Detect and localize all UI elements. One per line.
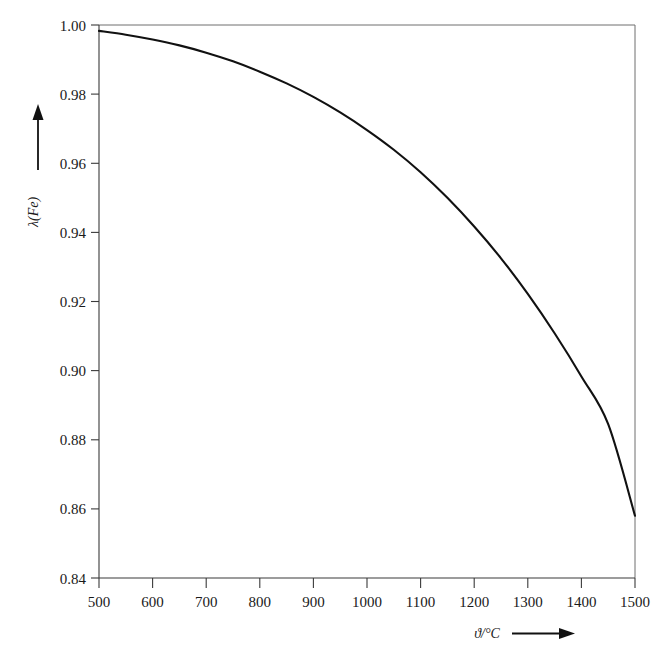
- x-axis-title-group: ϑ/°C: [474, 626, 575, 641]
- y-axis-tick-labels: 1.00 0.98 0.96 0.94 0.92 0.90 0.88 0.86 …: [60, 18, 87, 587]
- x-axis-tick-labels: 500 600 700 800 900 1000 1100 1200 1300 …: [88, 594, 650, 610]
- y-axis-title: λ(Fe): [26, 197, 42, 228]
- y-tick-label-0-84: 0.84: [60, 571, 87, 587]
- x-tick-label-500: 500: [88, 594, 111, 610]
- plot-frame-border: [99, 25, 635, 578]
- x-tick-label-700: 700: [195, 594, 218, 610]
- lambda-fe-vs-temperature-chart: 1.00 0.98 0.96 0.94 0.92 0.90 0.88 0.86 …: [0, 0, 670, 658]
- chart-page: 1.00 0.98 0.96 0.94 0.92 0.90 0.88 0.86 …: [0, 0, 670, 658]
- y-tick-label-0-86: 0.86: [60, 501, 87, 517]
- lambda-fe-curve: [99, 31, 635, 516]
- x-axis-ticks: [99, 578, 635, 588]
- x-axis-title: ϑ/°C: [474, 626, 500, 641]
- x-tick-label-1000: 1000: [352, 594, 382, 610]
- data-series-group: [99, 31, 635, 516]
- x-tick-label-1300: 1300: [513, 594, 543, 610]
- x-tick-label-900: 900: [302, 594, 325, 610]
- y-tick-label-0-92: 0.92: [60, 294, 86, 310]
- x-tick-label-600: 600: [141, 594, 164, 610]
- x-tick-label-1100: 1100: [406, 594, 435, 610]
- x-axis: 500 600 700 800 900 1000 1100 1200 1300 …: [88, 578, 650, 641]
- x-tick-label-1200: 1200: [459, 594, 489, 610]
- y-tick-label-1-00: 1.00: [60, 18, 86, 34]
- plot-frame: [99, 25, 635, 578]
- y-tick-label-0-88: 0.88: [60, 432, 86, 448]
- x-axis-arrow-icon: [512, 628, 575, 639]
- x-tick-label-1400: 1400: [566, 594, 596, 610]
- y-tick-label-0-98: 0.98: [60, 87, 86, 103]
- y-tick-label-0-90: 0.90: [60, 363, 86, 379]
- y-axis-arrow-icon: [33, 104, 44, 170]
- x-tick-label-1500: 1500: [620, 594, 650, 610]
- y-tick-label-0-94: 0.94: [60, 225, 87, 241]
- y-axis: 1.00 0.98 0.96 0.94 0.92 0.90 0.88 0.86 …: [26, 18, 99, 587]
- x-tick-label-800: 800: [249, 594, 272, 610]
- y-axis-ticks: [91, 25, 99, 578]
- y-axis-title-group: λ(Fe): [26, 104, 44, 228]
- y-tick-label-0-96: 0.96: [60, 156, 87, 172]
